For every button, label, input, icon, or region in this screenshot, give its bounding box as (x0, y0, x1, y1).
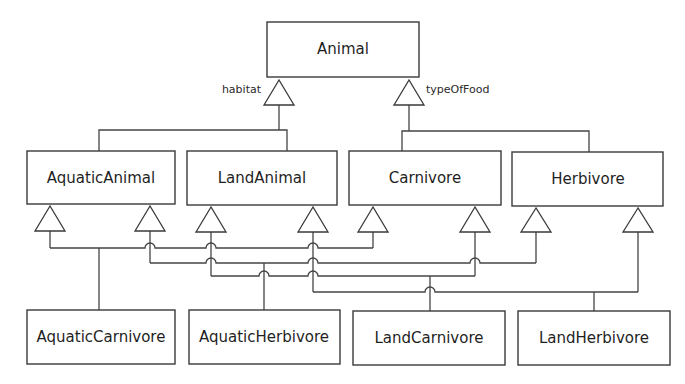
inheritance-arrow-icon (521, 208, 551, 232)
inheritance-arrow-icon (623, 208, 653, 232)
class-label-aquatic-carnivore: AquaticCarnivore (37, 328, 166, 346)
class-box-land-herbivore: LandHerbivore (518, 311, 670, 365)
class-label-land-herbivore: LandHerbivore (539, 329, 649, 347)
class-box-aquatic-herbivore: AquaticHerbivore (189, 310, 340, 364)
inheritance-arrow-icon (264, 80, 294, 105)
class-diagram: Animal habitat typeOfFood AquaticAnimal … (0, 0, 685, 384)
inheritance-arrow-icon (298, 207, 328, 232)
class-label-aquatic-animal: AquaticAnimal (47, 169, 155, 187)
inheritance-arrow-icon (358, 207, 388, 232)
class-box-herbivore: Herbivore (512, 152, 663, 206)
class-label-aquatic-herbivore: AquaticHerbivore (199, 328, 329, 346)
class-label-land-carnivore: LandCarnivore (375, 329, 484, 347)
discriminator-type-of-food: typeOfFood (426, 83, 489, 96)
inheritance-arrow-icon (460, 207, 490, 232)
generalization-habitat: habitat (99, 80, 294, 151)
class-box-animal: Animal (267, 22, 419, 77)
class-label-carnivore: Carnivore (389, 169, 461, 187)
discriminator-habitat: habitat (222, 83, 262, 96)
class-box-land-carnivore: LandCarnivore (353, 311, 505, 365)
inheritance-arrow-icon (135, 206, 165, 231)
inheritance-arrow-icon (35, 206, 65, 231)
class-box-aquatic-carnivore: AquaticCarnivore (27, 310, 175, 364)
class-box-land-animal: LandAnimal (187, 151, 337, 205)
class-box-carnivore: Carnivore (349, 151, 501, 205)
generalization-type-of-food: typeOfFood (394, 80, 589, 152)
class-label-land-animal: LandAnimal (218, 169, 306, 187)
class-label-animal: Animal (317, 40, 369, 58)
class-box-aquatic-animal: AquaticAnimal (27, 151, 175, 204)
class-label-herbivore: Herbivore (551, 170, 624, 188)
inheritance-arrow-icon (394, 80, 424, 105)
inheritance-arrow-icon (196, 207, 226, 232)
inheritance-arrows-middle (35, 206, 653, 232)
multiple-inheritance-wires (50, 231, 638, 311)
